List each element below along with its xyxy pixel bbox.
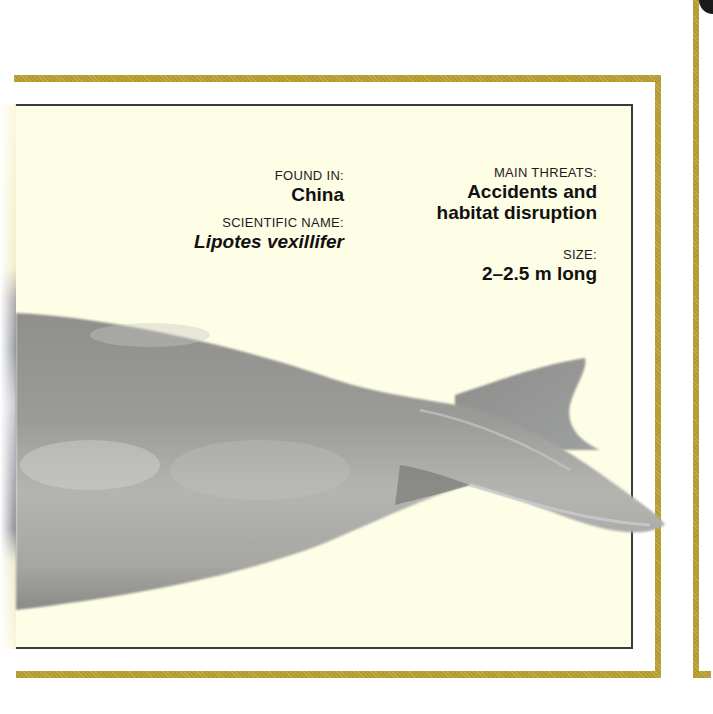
adjacent-page-gold-frame-bottom xyxy=(693,671,711,678)
main-threats-label: MAIN THREATS: xyxy=(357,165,597,181)
scientific-name-field: SCIENTIFIC NAME: Lipotes vexillifer xyxy=(84,215,344,252)
main-threats-value-line1: Accidents and xyxy=(357,181,597,202)
gold-frame-top xyxy=(14,75,661,82)
main-threats-value-line2: habitat disruption xyxy=(357,202,597,223)
gold-frame-right xyxy=(655,75,661,678)
found-in-field: FOUND IN: China xyxy=(124,168,344,205)
adjacent-page-dark-corner xyxy=(699,0,713,14)
size-value: 2–2.5 m long xyxy=(397,263,597,284)
scientific-name-label: SCIENTIFIC NAME: xyxy=(84,215,344,231)
scientific-name-value: Lipotes vexillifer xyxy=(84,231,344,252)
size-label: SIZE: xyxy=(397,247,597,263)
left-edge-fade xyxy=(0,60,16,700)
found-in-label: FOUND IN: xyxy=(124,168,344,184)
size-field: SIZE: 2–2.5 m long xyxy=(397,247,597,284)
adjacent-page-gold-frame-left xyxy=(693,0,699,678)
found-in-value: China xyxy=(124,184,344,205)
main-threats-field: MAIN THREATS: Accidents and habitat disr… xyxy=(357,165,597,223)
gold-frame-bottom xyxy=(16,671,661,678)
